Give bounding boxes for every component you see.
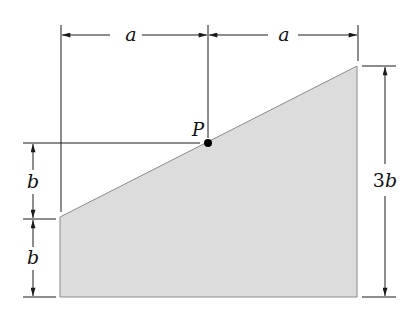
label-a-left: a <box>125 23 136 45</box>
label-3b: 3b <box>373 169 397 191</box>
diagram-canvas: a a b b 3b P <box>0 0 415 312</box>
label-a-right: a <box>278 23 289 45</box>
label-b-lower: b <box>27 246 39 268</box>
label-p: P <box>191 119 205 140</box>
point-p-marker <box>204 139 212 147</box>
label-b-upper: b <box>27 170 39 192</box>
